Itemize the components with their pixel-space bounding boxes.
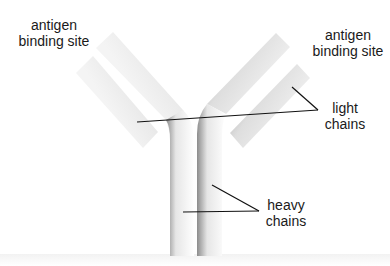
floor	[0, 254, 390, 266]
heavy-chains-leader-1	[183, 211, 259, 212]
label-antigen-binding-site-left: antigen binding site	[15, 17, 93, 49]
label-light-chains: light chains	[323, 100, 367, 132]
light-chains-leader-2	[292, 87, 318, 110]
label-antigen-binding-site-right: antigen binding site	[309, 27, 387, 59]
antibody-diagram: antigen binding site antigen binding sit…	[0, 0, 390, 266]
label-heavy-chains: heavy chains	[264, 197, 308, 229]
